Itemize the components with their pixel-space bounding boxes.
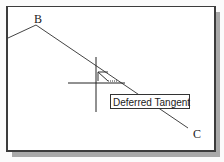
line-segment-ab [8,25,36,38]
cad-viewport: B C Deferred Tangent [0,0,224,162]
line-segment-bc [36,25,188,128]
point-label-c: C [193,127,201,142]
point-label-b: B [34,12,42,27]
snap-tooltip: Deferred Tangent [110,94,190,109]
